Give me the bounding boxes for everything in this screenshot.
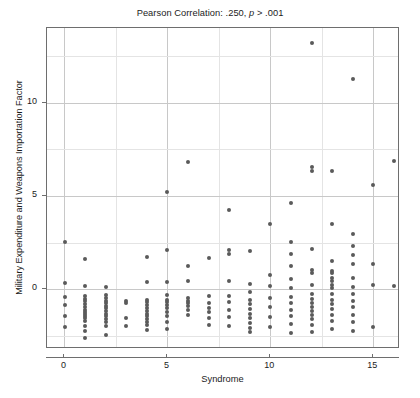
data-point bbox=[289, 240, 293, 244]
data-point bbox=[289, 314, 293, 318]
x-tick-mark bbox=[269, 354, 270, 358]
y-tick-label: 10 bbox=[7, 96, 37, 106]
data-point bbox=[124, 301, 128, 305]
data-point bbox=[227, 308, 231, 312]
data-point bbox=[186, 160, 190, 164]
chart-title-prefix: Pearson Correlation: .250, bbox=[137, 8, 249, 18]
data-point bbox=[145, 255, 149, 259]
data-point bbox=[330, 313, 334, 317]
data-point bbox=[165, 310, 169, 314]
data-point bbox=[351, 244, 355, 248]
data-point bbox=[310, 283, 314, 287]
data-point bbox=[63, 281, 67, 285]
data-point bbox=[330, 319, 334, 323]
data-point bbox=[165, 280, 169, 284]
x-axis-line bbox=[46, 357, 399, 358]
data-point bbox=[351, 276, 355, 280]
data-point bbox=[330, 222, 334, 226]
data-point bbox=[268, 296, 272, 300]
data-point bbox=[186, 279, 190, 283]
data-point bbox=[124, 324, 128, 328]
data-point bbox=[227, 300, 231, 304]
chart-title: Pearson Correlation: .250, p > .001 bbox=[0, 8, 420, 18]
data-point bbox=[227, 324, 231, 328]
data-point bbox=[351, 292, 355, 296]
data-point bbox=[227, 315, 231, 319]
data-point bbox=[83, 336, 87, 340]
data-point bbox=[310, 297, 314, 301]
data-point bbox=[248, 307, 252, 311]
y-tick-mark bbox=[42, 288, 46, 289]
data-point bbox=[351, 299, 355, 303]
data-point bbox=[248, 326, 252, 330]
gridline-vertical bbox=[322, 28, 323, 347]
data-point bbox=[371, 183, 375, 187]
data-point bbox=[289, 331, 293, 335]
data-point bbox=[310, 323, 314, 327]
gridline-horizontal bbox=[47, 243, 398, 244]
data-point bbox=[83, 324, 87, 328]
data-point bbox=[330, 327, 334, 331]
x-tick-mark bbox=[63, 354, 64, 358]
data-point bbox=[248, 290, 252, 294]
data-point bbox=[145, 323, 149, 327]
data-point bbox=[330, 169, 334, 173]
data-point bbox=[351, 285, 355, 289]
data-point bbox=[186, 264, 190, 268]
data-point bbox=[310, 247, 314, 251]
data-point bbox=[289, 322, 293, 326]
data-point bbox=[165, 293, 169, 297]
data-point bbox=[104, 333, 108, 337]
data-point bbox=[186, 313, 190, 317]
data-point bbox=[83, 329, 87, 333]
data-point bbox=[227, 252, 231, 256]
gridline-horizontal bbox=[47, 336, 398, 337]
data-point bbox=[248, 298, 252, 302]
data-point bbox=[145, 328, 149, 332]
data-point bbox=[207, 310, 211, 314]
data-point bbox=[63, 240, 67, 244]
data-point bbox=[289, 252, 293, 256]
data-point bbox=[207, 301, 211, 305]
data-point bbox=[207, 294, 211, 298]
data-point bbox=[207, 256, 211, 260]
y-tick-label: 5 bbox=[7, 189, 37, 199]
data-point bbox=[83, 319, 87, 323]
gridline-vertical bbox=[373, 28, 374, 347]
data-point bbox=[289, 277, 293, 281]
x-axis-label: Syndrome bbox=[46, 374, 399, 384]
data-point bbox=[63, 325, 67, 329]
data-point bbox=[83, 257, 87, 261]
gridline-horizontal bbox=[47, 149, 398, 150]
data-point bbox=[310, 271, 314, 275]
data-point bbox=[104, 285, 108, 289]
data-point bbox=[227, 208, 231, 212]
gridline-horizontal bbox=[47, 196, 398, 197]
data-point bbox=[310, 313, 314, 317]
data-point bbox=[330, 302, 334, 306]
data-point bbox=[371, 262, 375, 266]
scatter-plot-figure: Pearson Correlation: .250, p > .001 Mili… bbox=[0, 0, 420, 398]
data-point bbox=[310, 292, 314, 296]
data-point bbox=[83, 284, 87, 288]
gridline-vertical bbox=[116, 28, 117, 347]
data-point bbox=[268, 305, 272, 309]
data-point bbox=[268, 284, 272, 288]
data-point bbox=[351, 329, 355, 333]
data-point bbox=[248, 321, 252, 325]
data-point bbox=[227, 294, 231, 298]
y-tick-label: 0 bbox=[7, 282, 37, 292]
data-point bbox=[310, 41, 314, 45]
data-point bbox=[248, 282, 252, 286]
data-point bbox=[248, 330, 252, 334]
data-point bbox=[268, 222, 272, 226]
data-point bbox=[392, 284, 396, 288]
data-point bbox=[330, 292, 334, 296]
data-point bbox=[227, 279, 231, 283]
data-point bbox=[351, 232, 355, 236]
gridline-horizontal bbox=[47, 289, 398, 290]
data-point bbox=[165, 327, 169, 331]
data-point bbox=[289, 264, 293, 268]
data-point bbox=[330, 271, 334, 275]
data-point bbox=[124, 316, 128, 320]
